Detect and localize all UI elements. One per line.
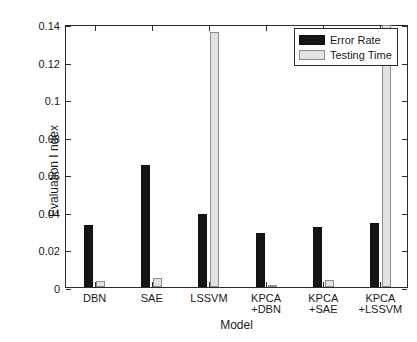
y-tick-mark-right bbox=[402, 101, 407, 102]
x-axis-label: Model bbox=[65, 318, 408, 332]
y-tick-label: 0.12 bbox=[39, 58, 60, 69]
y-tick-mark-right bbox=[402, 64, 407, 65]
y-tick-label: 0.02 bbox=[39, 246, 60, 257]
y-tick-mark-right bbox=[402, 139, 407, 140]
y-tick-mark-right bbox=[402, 289, 407, 290]
y-tick-label: 0.08 bbox=[39, 133, 60, 144]
legend-label-testing-time: Testing Time bbox=[330, 49, 392, 61]
x-tick-mark-top bbox=[152, 26, 153, 31]
x-tick-label: KPCA +LSSVM bbox=[359, 293, 403, 315]
bar-error-rate bbox=[198, 214, 207, 287]
legend-label-error-rate: Error Rate bbox=[330, 34, 381, 46]
y-tick-label: 0 bbox=[54, 284, 60, 295]
bar-testing-time bbox=[268, 285, 277, 287]
x-tick-label: SAE bbox=[141, 293, 163, 304]
y-tick-mark bbox=[66, 101, 71, 102]
bar-testing-time bbox=[153, 278, 162, 287]
y-tick-mark bbox=[66, 251, 71, 252]
x-tick-label: LSSVM bbox=[190, 293, 227, 304]
bar-error-rate bbox=[313, 227, 322, 287]
y-tick-mark bbox=[66, 26, 71, 27]
bar-error-rate bbox=[141, 165, 150, 287]
y-tick-mark bbox=[66, 176, 71, 177]
y-tick-mark-right bbox=[402, 26, 407, 27]
legend-item-error-rate: Error Rate bbox=[299, 32, 392, 47]
bar-error-rate bbox=[370, 223, 379, 287]
bar-testing-time bbox=[96, 281, 105, 287]
y-tick-mark bbox=[66, 139, 71, 140]
y-tick-mark bbox=[66, 214, 71, 215]
y-tick-mark bbox=[66, 289, 71, 290]
bar-testing-time bbox=[325, 280, 334, 288]
legend-item-testing-time: Testing Time bbox=[299, 47, 392, 62]
x-tick-label: DBN bbox=[83, 293, 106, 304]
x-tick-mark-top bbox=[266, 26, 267, 31]
x-tick-mark-top bbox=[95, 26, 96, 31]
y-tick-mark bbox=[66, 64, 71, 65]
legend-swatch-error-rate bbox=[299, 35, 325, 45]
legend-swatch-testing-time bbox=[299, 50, 325, 60]
y-tick-label: 0.04 bbox=[39, 208, 60, 219]
y-tick-label: 0.06 bbox=[39, 171, 60, 182]
x-tick-label: KPCA +SAE bbox=[308, 293, 338, 315]
x-tick-mark-top bbox=[209, 26, 210, 31]
bar-error-rate bbox=[84, 225, 93, 287]
y-tick-mark-right bbox=[402, 251, 407, 252]
y-tick-label: 0.14 bbox=[39, 21, 60, 32]
bar-chart-figure: Evaluation I ndex 00.020.040.060.080.10.… bbox=[0, 0, 417, 342]
y-tick-mark-right bbox=[402, 214, 407, 215]
bar-error-rate bbox=[256, 233, 265, 287]
y-tick-mark-right bbox=[402, 176, 407, 177]
x-tick-label: KPCA +DBN bbox=[251, 293, 281, 315]
y-tick-label: 0.1 bbox=[45, 96, 60, 107]
bar-testing-time bbox=[210, 32, 219, 287]
chart-legend: Error Rate Testing Time bbox=[294, 28, 398, 66]
